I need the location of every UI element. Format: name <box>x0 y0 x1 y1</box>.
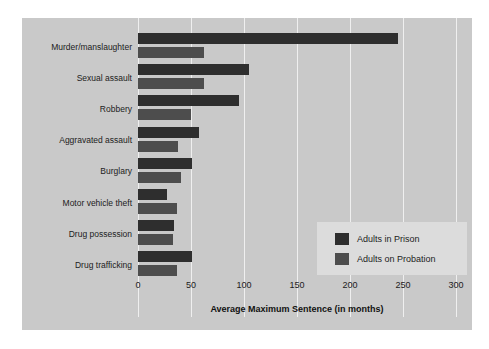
bar-row <box>138 95 456 106</box>
bar-row <box>138 64 456 75</box>
category-label: Sexual assault <box>77 73 132 83</box>
legend-label-prison: Adults in Prison <box>357 234 420 244</box>
bar <box>138 189 167 200</box>
x-tick-label-150: 150 <box>289 280 304 290</box>
chart-legend: Adults in Prison Adults on Probation <box>317 222 467 275</box>
legend-entry-prison: Adults in Prison <box>335 232 420 246</box>
legend-swatch-probation <box>335 253 349 265</box>
bar <box>138 220 174 231</box>
bar-row <box>138 141 456 152</box>
bar <box>138 33 398 44</box>
bar-row <box>138 203 456 214</box>
category-label: Aggravated assault <box>59 135 132 145</box>
bar <box>138 158 192 169</box>
x-axis-title: Average Maximum Sentence (in months) <box>138 304 456 314</box>
x-tick-label-0: 0 <box>135 280 140 290</box>
category-axis-labels: Murder/manslaughterSexual assaultRobbery… <box>22 31 132 289</box>
bar <box>138 64 249 75</box>
bar <box>138 109 191 120</box>
category-label: Drug trafficking <box>75 260 132 270</box>
chart-figure: Murder/manslaughterSexual assaultRobbery… <box>0 0 489 349</box>
bar <box>138 234 173 245</box>
category-label: Robbery <box>100 104 132 114</box>
category-label: Burglary <box>100 166 132 176</box>
chart-panel: Murder/manslaughterSexual assaultRobbery… <box>22 18 472 330</box>
bar-row <box>138 33 456 44</box>
bar <box>138 141 178 152</box>
category-label: Murder/manslaughter <box>51 42 132 52</box>
bar-row <box>138 78 456 89</box>
x-tick-label-200: 200 <box>342 280 357 290</box>
x-tick-label-50: 50 <box>186 280 196 290</box>
bar-row <box>138 127 456 138</box>
category-label: Motor vehicle theft <box>63 198 132 208</box>
legend-swatch-prison <box>335 233 349 245</box>
bar <box>138 265 177 276</box>
bar-row <box>138 109 456 120</box>
bar-row <box>138 172 456 183</box>
x-tick-label-250: 250 <box>395 280 410 290</box>
x-tick-label-100: 100 <box>236 280 251 290</box>
bar <box>138 172 181 183</box>
bar-row <box>138 158 456 169</box>
bar <box>138 251 192 262</box>
bar <box>138 127 199 138</box>
bar <box>138 78 204 89</box>
bar-row <box>138 47 456 58</box>
x-tick-label-300: 300 <box>448 280 463 290</box>
category-label: Drug possession <box>69 229 132 239</box>
legend-entry-probation: Adults on Probation <box>335 252 436 266</box>
bar <box>138 203 177 214</box>
bar <box>138 47 204 58</box>
bar <box>138 95 239 106</box>
legend-label-probation: Adults on Probation <box>357 254 436 264</box>
bar-row <box>138 189 456 200</box>
